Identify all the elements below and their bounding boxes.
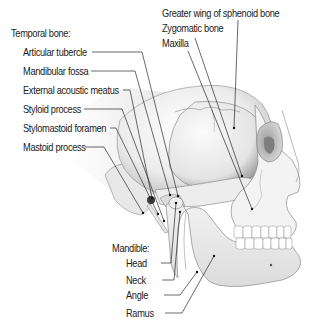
leader-angle — [164, 272, 197, 295]
label-maxilla: Maxilla — [162, 37, 189, 49]
mental-foramen — [270, 264, 272, 266]
label-mandibular-fossa: Mandibular fossa — [23, 65, 88, 77]
mandible-heading: Mandible: — [112, 242, 149, 254]
teeth — [234, 226, 292, 249]
label-mastoid-process: Mastoid process — [23, 141, 86, 153]
label-greater-wing-sphenoid: Greater wing of sphenoid bone — [162, 7, 279, 19]
label-articular-tubercle: Articular tubercle — [23, 46, 87, 58]
label-neck: Neck — [126, 274, 146, 286]
label-angle: Angle — [126, 289, 148, 301]
label-styloid-process: Styloid process — [23, 103, 81, 115]
label-head: Head — [126, 257, 147, 269]
label-external-acoustic-meatus: External acoustic meatus — [23, 84, 119, 96]
styloid-process-shape — [147, 204, 168, 233]
label-ramus: Ramus — [126, 307, 154, 319]
label-stylomastoid-foramen: Stylomastoid foramen — [23, 122, 106, 134]
temporal-bone-heading: Temporal bone: — [11, 27, 70, 39]
skull-anatomy-diagram: Temporal bone: Articular tubercle Mandib… — [0, 0, 313, 322]
label-zygomatic-bone: Zygomatic bone — [162, 22, 223, 34]
temporal-fossa — [169, 101, 266, 190]
